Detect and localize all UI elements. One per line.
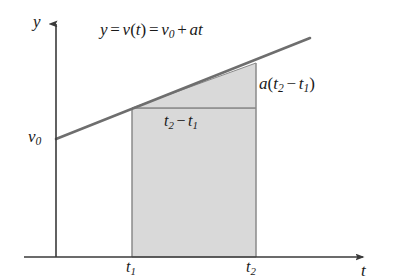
t2-subscript: 2: [250, 265, 255, 277]
equation-time-symbol: t: [198, 20, 203, 39]
t-axis-label: t: [361, 262, 366, 279]
v0-symbol: v: [28, 127, 36, 146]
tick-label-t2: t2: [246, 259, 256, 275]
accel-symbol: a: [259, 74, 268, 93]
acceleration-delta-label: a(t2−t1): [259, 75, 315, 92]
v0-subscript: 0: [36, 135, 42, 148]
equation-label: y=v(t)=v0+at: [100, 21, 203, 38]
t1-subscript: 1: [130, 265, 135, 277]
t-axis-label-text: t: [361, 261, 366, 280]
diagram-canvas: [0, 0, 394, 280]
time-interval-label: t2−t1: [164, 113, 198, 129]
equation-v-subscript: 0: [169, 28, 175, 41]
accel-minus: −: [284, 74, 299, 93]
y-axis-label: y: [33, 13, 41, 30]
equation-function-symbol: v: [123, 20, 131, 39]
interval-minus: −: [174, 112, 188, 129]
equation-equals-1: =: [108, 20, 123, 39]
tick-label-t1: t1: [126, 259, 136, 275]
y-axis-label-text: y: [33, 12, 41, 31]
accel-paren-close: ): [309, 74, 315, 93]
equation-acceleration-symbol: a: [190, 20, 199, 39]
interval-t1-subscript: 1: [192, 119, 197, 131]
initial-velocity-label: v0: [28, 128, 41, 145]
equation-v-symbol: v: [161, 20, 169, 39]
equation-plus: +: [175, 20, 190, 39]
equation-equals-2: =: [146, 20, 161, 39]
physics-diagram: y t y=v(t)=v0+at a(t2−t1) t2−t1 v0 t1 t2: [0, 0, 394, 280]
accel-t2-subscript: 2: [278, 82, 284, 95]
equation-lhs: y: [100, 20, 108, 39]
